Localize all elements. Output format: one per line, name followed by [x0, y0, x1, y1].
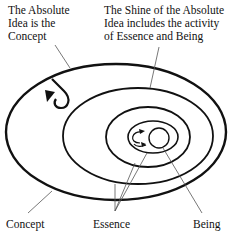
leader-essence-3 — [115, 163, 135, 211]
leader-absolute-idea — [55, 45, 70, 68]
leader-concept — [28, 191, 52, 213]
circle-being — [149, 128, 169, 148]
concept-return-arrow-icon — [45, 79, 68, 108]
concentric-ellipses-diagram — [0, 0, 233, 241]
essence-reflection-arrows-icon — [133, 129, 146, 147]
ellipse-concept — [6, 64, 226, 200]
ellipse-essence-inner — [128, 121, 178, 153]
